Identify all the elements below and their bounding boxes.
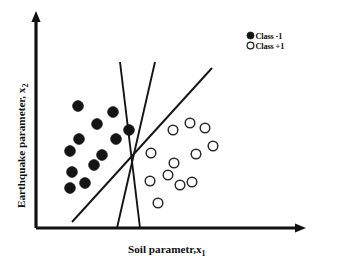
data-point-filled bbox=[65, 183, 76, 194]
legend-label-class-plus-one: Class +1 bbox=[256, 42, 285, 51]
data-point-hollow bbox=[146, 148, 156, 158]
data-point-filled bbox=[65, 146, 76, 157]
hollow-circle-icon bbox=[247, 42, 254, 49]
data-point-hollow bbox=[200, 123, 210, 133]
data-point-hollow bbox=[185, 118, 195, 128]
data-point-filled bbox=[124, 125, 135, 136]
data-point-filled bbox=[111, 134, 122, 145]
x-axis-label-text: Soil parametr,x bbox=[128, 243, 202, 255]
data-point-hollow bbox=[153, 198, 163, 208]
data-point-hollow bbox=[191, 149, 201, 159]
classification-scatter-figure: Class -1 Class +1 Soil parametr,x1 Earth… bbox=[0, 0, 338, 269]
data-point-filled bbox=[89, 160, 100, 171]
data-point-hollow bbox=[187, 177, 197, 187]
data-point-hollow bbox=[208, 141, 218, 151]
x-axis-label-subscript: 1 bbox=[202, 249, 206, 258]
data-point-filled bbox=[97, 150, 108, 161]
filled-circle-icon bbox=[247, 32, 254, 39]
data-point-hollow bbox=[175, 180, 185, 190]
data-point-hollow bbox=[169, 158, 179, 168]
data-point-filled bbox=[108, 107, 119, 118]
data-point-filled bbox=[74, 134, 85, 145]
data-point-hollow bbox=[145, 176, 155, 186]
y-axis-label-text: Earthquake parameter, x bbox=[15, 87, 27, 208]
data-point-filled bbox=[92, 119, 103, 130]
scatter-plot-canvas: Class -1 Class +1 Soil parametr,x1 Earth… bbox=[0, 0, 338, 269]
legend-label-class-minus-one: Class -1 bbox=[256, 32, 283, 41]
data-point-hollow bbox=[163, 170, 173, 180]
data-point-hollow bbox=[168, 125, 178, 135]
data-point-filled bbox=[67, 167, 78, 178]
data-point-filled bbox=[80, 178, 91, 189]
y-axis-label-subscript: 2 bbox=[21, 84, 30, 88]
data-point-filled bbox=[73, 101, 84, 112]
